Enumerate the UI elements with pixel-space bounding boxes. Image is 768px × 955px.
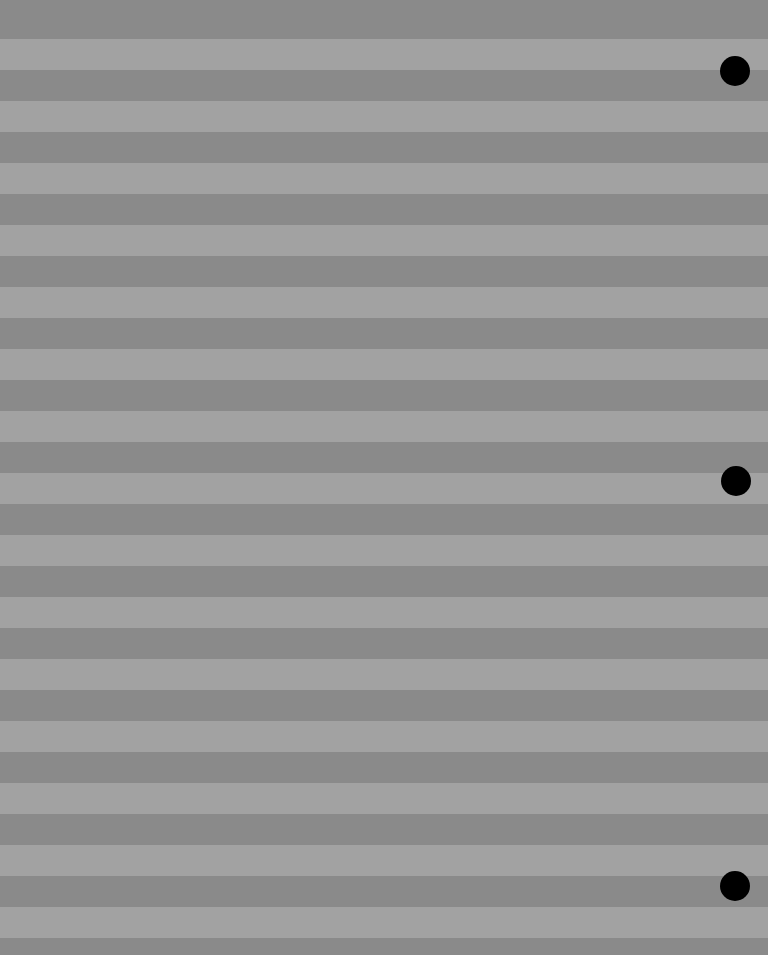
dark-stripe <box>0 0 768 39</box>
dark-stripe <box>0 132 768 163</box>
dark-stripe <box>0 70 768 101</box>
light-stripe <box>0 473 768 504</box>
light-stripe <box>0 287 768 318</box>
light-stripe <box>0 721 768 752</box>
dark-stripe <box>0 504 768 535</box>
dark-stripe <box>0 814 768 845</box>
dark-stripe <box>0 690 768 721</box>
dark-stripe <box>0 318 768 349</box>
striped-paper-sheet <box>0 0 768 955</box>
light-stripe <box>0 907 768 938</box>
punch-hole-icon <box>721 466 751 496</box>
dark-stripe <box>0 380 768 411</box>
dark-stripe <box>0 194 768 225</box>
light-stripe <box>0 845 768 876</box>
punch-hole-icon <box>720 871 750 901</box>
light-stripe <box>0 39 768 70</box>
dark-stripe <box>0 938 768 955</box>
dark-stripe <box>0 442 768 473</box>
light-stripe <box>0 411 768 442</box>
dark-stripe <box>0 566 768 597</box>
light-stripe <box>0 535 768 566</box>
dark-stripe <box>0 256 768 287</box>
light-stripe <box>0 101 768 132</box>
dark-stripe <box>0 628 768 659</box>
punch-hole-icon <box>720 56 750 86</box>
light-stripe <box>0 659 768 690</box>
light-stripe <box>0 225 768 256</box>
light-stripe <box>0 783 768 814</box>
light-stripe <box>0 163 768 194</box>
dark-stripe <box>0 876 768 907</box>
dark-stripe <box>0 752 768 783</box>
light-stripe <box>0 597 768 628</box>
light-stripe <box>0 349 768 380</box>
